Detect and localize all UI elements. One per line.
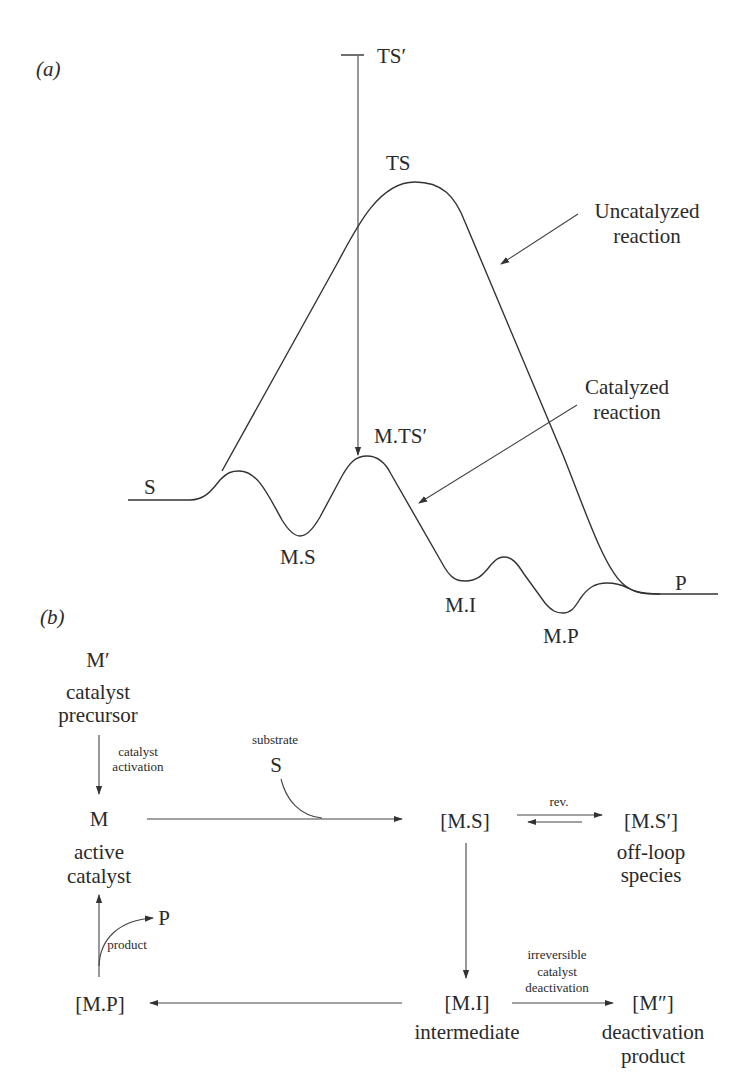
- state-p-label: P: [675, 571, 687, 595]
- deactivation-label-line1: irreversible: [527, 947, 586, 962]
- panel-b-label: (b): [40, 605, 65, 629]
- activation-label-line2: activation: [112, 759, 164, 774]
- product-label: product: [107, 937, 147, 952]
- substrate-entry-curve: [281, 779, 322, 818]
- rev-label: rev.: [549, 794, 568, 809]
- ms-prime-symbol: [M.S′]: [624, 809, 678, 833]
- deactivation-label-line3: deactivation: [525, 980, 589, 995]
- panel-a-energy-profile: (a) TS′ S TS M.TS′ M.S M.I M.P P Uncatal…: [36, 44, 718, 648]
- active-catalyst-symbol: M: [90, 807, 109, 831]
- mp-symbol: [M.P]: [75, 992, 125, 1016]
- product-symbol: P: [158, 906, 170, 930]
- precursor-desc-line2: precursor: [58, 703, 137, 727]
- state-m-p-label: M.P: [543, 624, 579, 648]
- catalyzed-annotation-line1: Catalyzed: [585, 375, 669, 399]
- mi-desc: intermediate: [415, 1020, 520, 1044]
- ms-complex-symbol: [M.S]: [440, 809, 490, 833]
- deactivation-label-line2: catalyst: [537, 964, 577, 979]
- catalyzed-annotation-line2: reaction: [593, 400, 661, 424]
- precursor-desc-line1: catalyst: [66, 680, 130, 704]
- state-m-i-label: M.I: [445, 593, 476, 617]
- m-double-prime-desc-line1: deactivation: [602, 1020, 705, 1044]
- state-m-s-label: M.S: [280, 545, 316, 569]
- ts-prime-label: TS′: [377, 44, 406, 68]
- catalyzed-pointer-arrow: [419, 405, 577, 503]
- state-ts-label: TS: [386, 151, 411, 175]
- catalyzed-profile-curve: [128, 456, 718, 613]
- ms-prime-desc-line1: off-loop: [617, 840, 685, 864]
- uncatalyzed-pointer-arrow: [501, 214, 578, 264]
- precursor-symbol: M′: [86, 648, 109, 672]
- catalysis-figure: (a) TS′ S TS M.TS′ M.S M.I M.P P Uncatal…: [0, 0, 743, 1089]
- substrate-label: substrate: [252, 732, 298, 747]
- active-catalyst-desc-line2: catalyst: [67, 864, 131, 888]
- uncatalyzed-annotation-line2: reaction: [613, 224, 681, 248]
- panel-b-catalytic-cycle: (b) M′ catalyst precursor catalyst activ…: [40, 605, 705, 1068]
- m-double-prime-symbol: [M″]: [632, 991, 673, 1015]
- mi-symbol: [M.I]: [445, 991, 490, 1015]
- panel-a-label: (a): [36, 57, 61, 81]
- state-m-ts-prime-label: M.TS′: [374, 424, 427, 448]
- state-s-label: S: [144, 475, 156, 499]
- m-double-prime-desc-line2: product: [621, 1044, 685, 1068]
- ms-prime-desc-line2: species: [621, 863, 682, 887]
- activation-label-line1: catalyst: [118, 744, 158, 759]
- substrate-symbol: S: [270, 753, 282, 777]
- active-catalyst-desc-line1: active: [74, 840, 124, 864]
- uncatalyzed-annotation-line1: Uncatalyzed: [595, 199, 700, 223]
